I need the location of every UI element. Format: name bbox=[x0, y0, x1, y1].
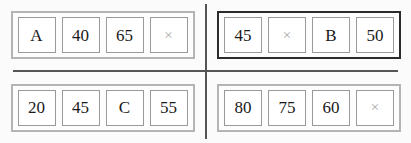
quadrant-top-left: A 40 65 × bbox=[0, 0, 205, 70]
quadrant-bottom-right: 80 75 60 × bbox=[207, 72, 411, 143]
tile[interactable]: 75 bbox=[268, 90, 306, 126]
quadrant-top-right: 45 × B 50 bbox=[207, 0, 411, 70]
tile-blank[interactable]: × bbox=[356, 90, 394, 126]
tile[interactable]: 50 bbox=[356, 17, 394, 53]
tile[interactable]: 60 bbox=[312, 90, 350, 126]
tile[interactable]: 20 bbox=[18, 90, 56, 126]
tile[interactable]: 40 bbox=[62, 17, 100, 53]
tile-blank[interactable]: × bbox=[150, 17, 188, 53]
tile[interactable]: C bbox=[106, 90, 144, 126]
tile-group-top-right[interactable]: 45 × B 50 bbox=[217, 11, 401, 59]
tile-group-top-left[interactable]: A 40 65 × bbox=[11, 11, 195, 59]
tile-group-bottom-left[interactable]: 20 45 C 55 bbox=[11, 84, 195, 132]
tile[interactable]: 65 bbox=[106, 17, 144, 53]
quadrant-bottom-left: 20 45 C 55 bbox=[0, 72, 205, 143]
tile-blank[interactable]: × bbox=[268, 17, 306, 53]
tile[interactable]: 55 bbox=[150, 90, 188, 126]
tile-group-bottom-right[interactable]: 80 75 60 × bbox=[217, 84, 401, 132]
tile[interactable]: 45 bbox=[224, 17, 262, 53]
tile[interactable]: B bbox=[312, 17, 350, 53]
tile[interactable]: A bbox=[18, 17, 56, 53]
tile[interactable]: 45 bbox=[62, 90, 100, 126]
tile[interactable]: 80 bbox=[224, 90, 262, 126]
tile-board: A 40 65 × 45 × B 50 20 45 C 55 80 75 60 … bbox=[0, 0, 411, 143]
